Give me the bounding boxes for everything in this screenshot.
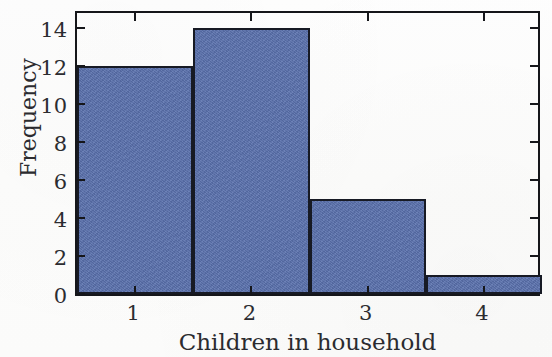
y-tick-label-4: 4 — [54, 210, 67, 231]
y-tick-right-14 — [530, 27, 538, 29]
y-tick-left-8 — [77, 141, 85, 143]
x-tick-top-3 — [367, 13, 369, 21]
y-tick-right-6 — [530, 179, 538, 181]
y-tick-label-0: 0 — [54, 286, 67, 307]
y-tick-label-2: 2 — [54, 248, 67, 269]
bar-2 — [193, 28, 309, 294]
plot-area — [75, 11, 540, 296]
x-tick-bottom-1 — [134, 286, 136, 294]
y-tick-right-10 — [530, 103, 538, 105]
y-tick-right-4 — [530, 217, 538, 219]
chart-figure: Frequency 02468101214 1234 Children in h… — [0, 0, 552, 357]
y-axis-tick-labels: 02468101214 — [33, 11, 67, 296]
x-tick-label-4: 4 — [475, 303, 488, 324]
y-tick-right-2 — [530, 255, 538, 257]
x-tick-bottom-3 — [367, 286, 369, 294]
y-tick-label-12: 12 — [40, 58, 67, 79]
x-tick-label-1: 1 — [126, 303, 139, 324]
y-tick-label-8: 8 — [54, 134, 67, 155]
x-tick-label-3: 3 — [359, 303, 372, 324]
y-tick-right-8 — [530, 141, 538, 143]
y-tick-left-10 — [77, 103, 85, 105]
x-axis-tick-labels: 1234 — [75, 303, 540, 329]
y-tick-label-14: 14 — [40, 20, 67, 41]
y-tick-left-2 — [77, 255, 85, 257]
y-tick-left-12 — [77, 65, 85, 67]
x-axis-title: Children in household — [75, 329, 540, 355]
y-tick-label-10: 10 — [40, 96, 67, 117]
y-tick-left-6 — [77, 179, 85, 181]
x-tick-bottom-4 — [483, 286, 485, 294]
x-tick-top-1 — [134, 13, 136, 21]
bar-3 — [310, 199, 426, 294]
y-tick-left-4 — [77, 217, 85, 219]
y-tick-right-12 — [530, 65, 538, 67]
x-tick-label-2: 2 — [243, 303, 256, 324]
y-tick-left-0 — [77, 293, 85, 295]
y-tick-left-14 — [77, 27, 85, 29]
y-tick-label-6: 6 — [54, 172, 67, 193]
bar-1 — [77, 66, 193, 294]
y-tick-right-0 — [530, 293, 538, 295]
x-tick-bottom-2 — [250, 286, 252, 294]
x-tick-top-2 — [250, 13, 252, 21]
x-tick-top-4 — [483, 13, 485, 21]
